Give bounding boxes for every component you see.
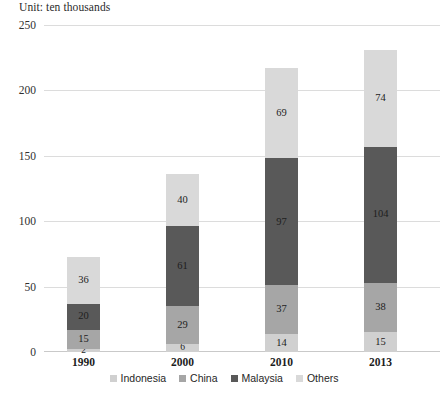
- y-axis-tick-label: 150: [19, 150, 36, 162]
- legend-label: Others: [307, 372, 339, 384]
- bar-value-label: 15: [78, 334, 89, 345]
- bar-value-label: 97: [276, 217, 287, 228]
- bar-segment[interactable]: 69: [265, 68, 298, 158]
- bar-segment[interactable]: 20: [67, 304, 100, 330]
- y-axis-tick-label: 0: [30, 346, 36, 358]
- legend: IndonesiaChinaMalaysiaOthers: [0, 372, 448, 384]
- y-axis-tick-label: 200: [19, 84, 36, 96]
- bar-segment[interactable]: 2: [67, 349, 100, 352]
- x-axis-tick-label: 1990: [49, 356, 119, 368]
- bar-value-label: 74: [375, 93, 386, 104]
- bar-segment[interactable]: 97: [265, 158, 298, 285]
- y-axis-tick-label: 250: [19, 19, 36, 31]
- y-axis-tick-label: 50: [25, 281, 37, 293]
- bar-segment[interactable]: 104: [364, 147, 397, 283]
- x-axis: 1990200020102013: [44, 356, 440, 372]
- legend-item[interactable]: China: [179, 372, 217, 384]
- x-axis-tick-label: 2010: [247, 356, 317, 368]
- bar-value-label: 38: [375, 302, 386, 313]
- plot-area: 2152036629614014379769153810474: [44, 25, 440, 352]
- legend-label: Indonesia: [121, 372, 167, 384]
- bar-value-label: 69: [276, 108, 287, 119]
- legend-label: Malaysia: [242, 372, 283, 384]
- bar-value-label: 6: [180, 343, 185, 353]
- bar-value-label: 20: [78, 311, 89, 322]
- x-axis-tick-label: 2013: [346, 356, 416, 368]
- bar-segment[interactable]: 40: [166, 174, 199, 226]
- x-axis-tick-label: 2000: [148, 356, 218, 368]
- legend-swatch-icon: [110, 375, 117, 382]
- legend-label: China: [190, 372, 217, 384]
- legend-item[interactable]: Indonesia: [110, 372, 167, 384]
- legend-item[interactable]: Others: [296, 372, 339, 384]
- legend-item[interactable]: Malaysia: [231, 372, 283, 384]
- bar-value-label: 37: [276, 304, 287, 315]
- unit-caption: Unit: ten thousands: [19, 1, 110, 13]
- bar-segment[interactable]: 38: [364, 283, 397, 333]
- bar-segment[interactable]: 37: [265, 285, 298, 333]
- legend-swatch-icon: [296, 375, 303, 382]
- bar-value-label: 104: [373, 209, 389, 220]
- bar-value-label: 40: [177, 195, 188, 206]
- bar-value-label: 14: [276, 338, 287, 349]
- stacked-bar-chart: Unit: ten thousands 050100150200250 2152…: [0, 0, 448, 402]
- bar-segment[interactable]: 6: [166, 344, 199, 352]
- bar-segment[interactable]: 61: [166, 226, 199, 306]
- bar-value-label: 36: [78, 275, 89, 286]
- bar-segment[interactable]: 29: [166, 306, 199, 344]
- bar-segment[interactable]: 15: [364, 332, 397, 352]
- bar-value-label: 29: [177, 320, 188, 331]
- bar-value-label: 61: [177, 261, 188, 272]
- bar-segment[interactable]: 15: [67, 330, 100, 350]
- bar-segment[interactable]: 74: [364, 50, 397, 147]
- legend-swatch-icon: [179, 375, 186, 382]
- bar-segment[interactable]: 14: [265, 334, 298, 352]
- y-axis-tick-label: 100: [19, 215, 36, 227]
- y-axis: 050100150200250: [0, 25, 40, 352]
- bar-segment[interactable]: 36: [67, 257, 100, 304]
- gridline: [44, 25, 440, 26]
- bar-value-label: 15: [375, 337, 386, 348]
- legend-swatch-icon: [231, 375, 238, 382]
